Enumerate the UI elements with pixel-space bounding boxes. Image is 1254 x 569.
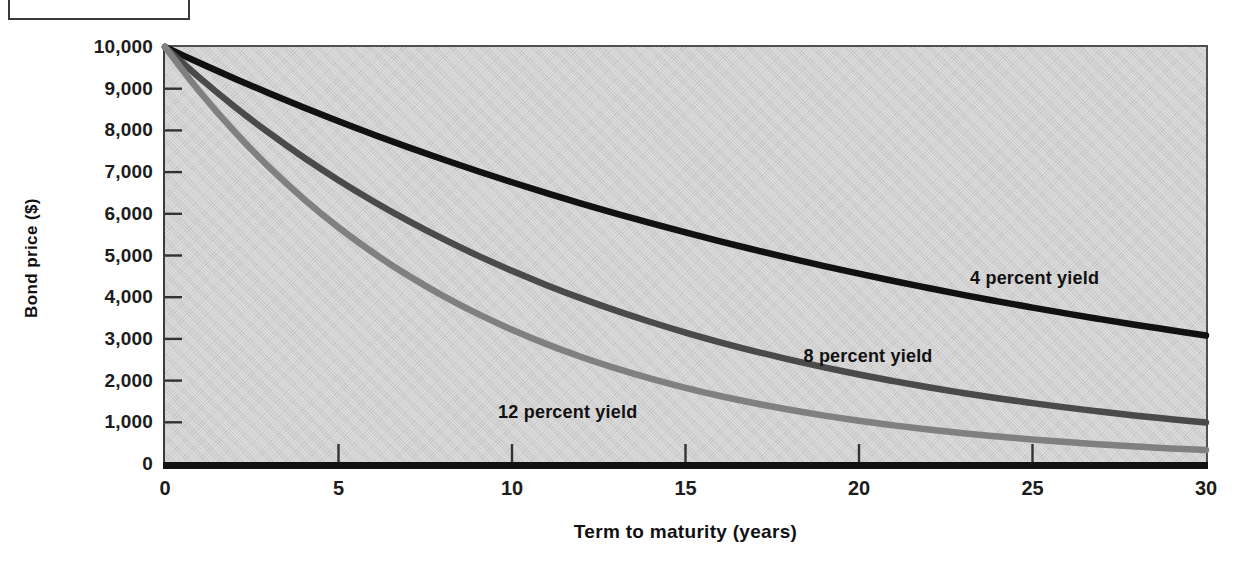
series-label: 8 percent yield <box>803 346 932 367</box>
y-tick-label: 8,000 <box>53 119 153 141</box>
series-label: 4 percent yield <box>970 268 1099 289</box>
x-tick-label: 10 <box>482 477 542 500</box>
y-tick-label: 3,000 <box>53 328 153 350</box>
x-tick-label: 15 <box>656 477 716 500</box>
y-tick-label: 7,000 <box>53 161 153 183</box>
y-tick-label: 5,000 <box>53 245 153 267</box>
series-label: 12 percent yield <box>498 402 637 423</box>
x-tick-label: 30 <box>1176 477 1236 500</box>
y-tick-label: 2,000 <box>53 370 153 392</box>
y-tick-label: 6,000 <box>53 203 153 225</box>
y-tick-label: 1,000 <box>53 411 153 433</box>
series-lines <box>165 47 1206 450</box>
x-axis-title: Term to maturity (years) <box>163 521 1208 543</box>
x-tick-label: 0 <box>135 477 195 500</box>
y-tick-label: 0 <box>53 453 153 475</box>
x-tick-label: 5 <box>309 477 369 500</box>
y-tick-label: 10,000 <box>53 36 153 58</box>
y-tick-label: 4,000 <box>53 286 153 308</box>
y-axis-ticks <box>165 89 182 423</box>
x-tick-label: 25 <box>1003 477 1063 500</box>
x-axis-ticks <box>339 444 1033 462</box>
y-axis-title: Bond price ($) <box>22 163 42 353</box>
bond-price-line-chart: 10,0009,0008,0007,0006,0005,0004,0003,00… <box>0 0 1254 569</box>
x-tick-label: 20 <box>829 477 889 500</box>
y-tick-label: 9,000 <box>53 78 153 100</box>
